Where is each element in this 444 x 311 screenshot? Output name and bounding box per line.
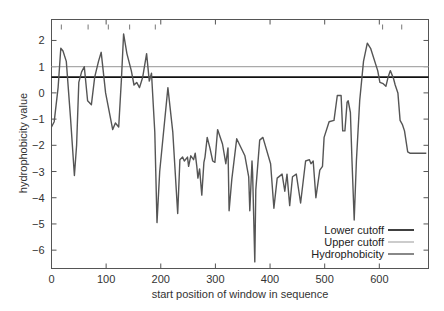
legend-label-lower-cutoff: Lower cutoff [324,224,385,236]
x-tick-label: 200 [152,273,170,285]
legend: Lower cutoff Upper cutoff Hydrophobicity [311,224,414,260]
x-tick-label: 100 [97,273,115,285]
y-tick-label: 1 [38,61,44,73]
y-tick-label: −6 [32,244,45,256]
y-axis-ticks: 210−1−2−3−4−5−6 [32,34,429,256]
legend-label-hydrophobicity: Hydrophobicity [311,248,384,260]
y-tick-label: 2 [38,34,44,46]
x-tick-label: 600 [370,273,388,285]
top-annotation-ticks [61,25,401,30]
hydrophobicity-chart: 210−1−2−3−4−5−6 0100200300400500600 hydr… [0,0,444,311]
y-tick-label: −2 [32,139,45,151]
y-tick-label: −3 [32,166,45,178]
legend-label-upper-cutoff: Upper cutoff [324,236,385,248]
y-tick-label: −1 [32,113,45,125]
x-tick-label: 0 [48,273,54,285]
x-tick-label: 300 [206,273,224,285]
x-tick-label: 500 [316,273,334,285]
y-tick-label: −5 [32,218,45,230]
x-axis-label: start position of window in sequence [152,288,329,300]
y-axis-label: hydrophobicity value [17,93,29,193]
x-tick-label: 400 [261,273,279,285]
y-tick-label: −4 [32,192,45,204]
y-tick-label: 0 [38,87,44,99]
